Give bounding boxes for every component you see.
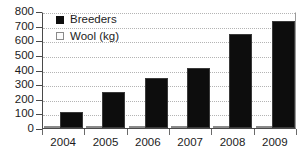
bar-group — [170, 13, 212, 128]
bar-breeders — [102, 92, 125, 128]
x-axis-tick — [296, 129, 297, 135]
legend-item-wool: Wool (kg) — [56, 31, 119, 43]
bar-breeders — [145, 78, 168, 128]
bar-breeders — [60, 112, 83, 128]
legend-label-breeders: Breeders — [70, 14, 117, 26]
y-axis-tick-label: 700 — [0, 21, 34, 33]
bar-wool — [129, 126, 145, 128]
legend-swatch-open-square-icon — [56, 32, 64, 40]
bar-wool — [171, 126, 187, 128]
x-axis-tick-label: 2006 — [135, 136, 161, 148]
bar-wool — [44, 126, 60, 128]
y-axis-tick-label: 100 — [0, 109, 34, 121]
y-axis-labels: 0100200300400500600700800 — [0, 0, 34, 163]
bar-group — [128, 13, 170, 128]
x-axis-tick-label: 2004 — [50, 136, 76, 148]
bar-group — [212, 13, 254, 128]
x-axis-tick-label: 2007 — [177, 136, 203, 148]
bar-group — [255, 13, 297, 128]
y-axis-tick-label: 200 — [0, 94, 34, 106]
x-axis-tick-label: 2009 — [262, 136, 288, 148]
legend-label-wool: Wool (kg) — [70, 31, 119, 43]
y-axis-tick-label: 500 — [0, 50, 34, 62]
bar-wool — [86, 126, 102, 128]
x-axis-tick-label: 2005 — [93, 136, 119, 148]
x-axis-tick — [42, 129, 43, 135]
bar-breeders — [272, 21, 295, 128]
y-axis-tick-label: 600 — [0, 36, 34, 48]
bar-breeders — [229, 34, 252, 128]
x-axis-tick — [169, 129, 170, 135]
y-axis-tick-label: 400 — [0, 65, 34, 77]
legend-swatch-filled-square-icon — [56, 16, 64, 24]
y-axis-tick-label: 300 — [0, 79, 34, 91]
x-axis-tick — [211, 129, 212, 135]
x-axis-tick — [254, 129, 255, 135]
legend-item-breeders: Breeders — [56, 14, 119, 26]
x-axis-tick — [84, 129, 85, 135]
x-axis-tick-label: 2008 — [220, 136, 246, 148]
y-axis-tick-label: 800 — [0, 6, 34, 18]
bar-breeders — [187, 68, 210, 128]
chart-legend: Breeders Wool (kg) — [56, 14, 119, 47]
bar-wool — [256, 126, 272, 128]
bar-wool — [213, 126, 229, 128]
bar-chart: 0100200300400500600700800 20042005200620… — [0, 0, 305, 163]
x-axis-tick — [127, 129, 128, 135]
y-axis-tick-label: 0 — [0, 123, 34, 135]
